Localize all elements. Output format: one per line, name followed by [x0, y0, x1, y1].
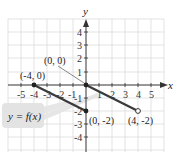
y-axis-label: y [82, 5, 88, 17]
svg-text:-4: -4 [74, 132, 82, 143]
closed-point-0-0 [84, 83, 89, 88]
function-graph: y x -5 -4 -3 -2 -1 1 2 3 4 5 4 3 2 1 -1 … [0, 0, 176, 152]
point-label-neg4-0: (-4, 0) [20, 70, 45, 82]
closed-point-neg4-0 [32, 83, 37, 88]
closed-point-0-neg2 [84, 109, 89, 114]
svg-text:4: 4 [77, 27, 82, 38]
svg-text:-5: -5 [17, 89, 25, 100]
point-label-0-neg2: (0, -2) [89, 115, 114, 127]
point-label-4-neg2: (4, -2) [128, 115, 153, 127]
point-label-0-0: (0, 0) [44, 55, 66, 67]
svg-text:1: 1 [77, 67, 82, 78]
svg-text:-1: -1 [74, 93, 82, 104]
svg-text:3: 3 [77, 40, 82, 51]
function-label: y = f(x) [7, 110, 41, 123]
svg-text:2: 2 [77, 53, 82, 64]
svg-text:5: 5 [149, 89, 154, 100]
svg-text:3: 3 [123, 89, 128, 100]
svg-text:4: 4 [136, 89, 141, 100]
svg-text:-4: -4 [30, 89, 38, 100]
x-axis-label: x [167, 79, 173, 91]
open-point-4-neg2 [136, 109, 141, 114]
y-axis-arrow-icon [83, 19, 89, 27]
svg-text:-3: -3 [74, 119, 82, 130]
